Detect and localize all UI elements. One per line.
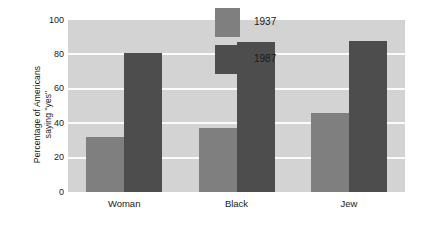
x-axis-category-labels: WomanBlackJew bbox=[68, 198, 405, 214]
bar-chart-figure: Percentage of Americans saying "yes" 020… bbox=[0, 0, 423, 227]
x-axis-tick-label-woman: Woman bbox=[108, 198, 141, 210]
y-axis-tick-label: 40 bbox=[36, 119, 64, 128]
legend-label-1937: 1937 bbox=[254, 16, 276, 28]
y-axis-tick-labels: 020406080100 bbox=[36, 20, 64, 192]
y-axis-tick-label: 60 bbox=[36, 84, 64, 93]
legend-swatch-1987 bbox=[215, 45, 240, 74]
legend-label-1987: 1987 bbox=[254, 53, 276, 65]
y-axis-tick-label: 0 bbox=[36, 188, 64, 197]
legend: 19371987 bbox=[215, 8, 307, 82]
bar-woman-1987 bbox=[124, 53, 162, 192]
x-axis-tick-label-black: Black bbox=[225, 198, 248, 210]
bar-black-1937 bbox=[199, 128, 237, 192]
x-axis-tick-label-jew: Jew bbox=[340, 198, 357, 210]
y-axis-tick-label: 20 bbox=[36, 153, 64, 162]
bar-jew-1987 bbox=[349, 41, 387, 192]
y-axis-tick-label: 100 bbox=[36, 16, 64, 25]
y-axis-tick-label: 80 bbox=[36, 50, 64, 59]
bar-jew-1937 bbox=[311, 113, 349, 192]
legend-entry-1987: 1987 bbox=[215, 45, 307, 74]
legend-swatch-1937 bbox=[215, 8, 240, 37]
bar-woman-1937 bbox=[86, 137, 124, 192]
legend-entry-1937: 1937 bbox=[215, 8, 307, 37]
